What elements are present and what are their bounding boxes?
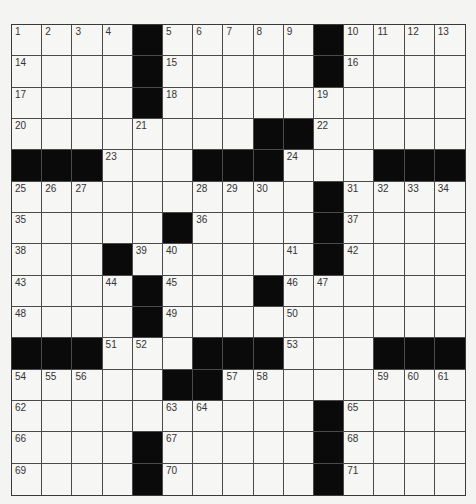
grid-cell[interactable] bbox=[193, 119, 223, 150]
grid-cell[interactable] bbox=[344, 307, 374, 338]
grid-cell[interactable]: 65 bbox=[344, 401, 374, 432]
grid-cell[interactable] bbox=[344, 119, 374, 150]
grid-cell[interactable]: 5 bbox=[163, 25, 193, 56]
grid-cell[interactable]: 8 bbox=[254, 25, 284, 56]
grid-cell[interactable]: 10 bbox=[344, 25, 374, 56]
grid-cell[interactable] bbox=[435, 119, 465, 150]
grid-cell[interactable]: 22 bbox=[314, 119, 344, 150]
grid-cell[interactable] bbox=[163, 182, 193, 213]
grid-cell[interactable] bbox=[72, 213, 102, 244]
grid-cell[interactable] bbox=[314, 370, 344, 401]
grid-cell[interactable]: 51 bbox=[103, 338, 133, 369]
grid-cell[interactable] bbox=[284, 432, 314, 463]
grid-cell[interactable] bbox=[193, 56, 223, 87]
grid-cell[interactable]: 16 bbox=[344, 56, 374, 87]
grid-cell[interactable]: 42 bbox=[344, 244, 374, 275]
grid-cell[interactable]: 33 bbox=[405, 182, 435, 213]
grid-cell[interactable] bbox=[405, 213, 435, 244]
grid-cell[interactable] bbox=[72, 88, 102, 119]
grid-cell[interactable]: 45 bbox=[163, 276, 193, 307]
grid-cell[interactable] bbox=[103, 432, 133, 463]
grid-cell[interactable]: 1 bbox=[12, 25, 42, 56]
grid-cell[interactable] bbox=[374, 119, 404, 150]
grid-cell[interactable] bbox=[103, 401, 133, 432]
grid-cell[interactable] bbox=[103, 213, 133, 244]
grid-cell[interactable] bbox=[223, 88, 253, 119]
grid-cell[interactable] bbox=[193, 307, 223, 338]
grid-cell[interactable] bbox=[223, 401, 253, 432]
grid-cell[interactable] bbox=[374, 432, 404, 463]
grid-cell[interactable]: 70 bbox=[163, 464, 193, 495]
grid-cell[interactable] bbox=[223, 464, 253, 495]
grid-cell[interactable]: 19 bbox=[314, 88, 344, 119]
grid-cell[interactable]: 53 bbox=[284, 338, 314, 369]
grid-cell[interactable] bbox=[284, 464, 314, 495]
grid-cell[interactable] bbox=[374, 464, 404, 495]
grid-cell[interactable] bbox=[374, 213, 404, 244]
grid-cell[interactable] bbox=[405, 401, 435, 432]
grid-cell[interactable] bbox=[193, 464, 223, 495]
grid-cell[interactable] bbox=[42, 119, 72, 150]
grid-cell[interactable] bbox=[103, 307, 133, 338]
grid-cell[interactable] bbox=[435, 213, 465, 244]
grid-cell[interactable]: 44 bbox=[103, 276, 133, 307]
grid-cell[interactable] bbox=[405, 276, 435, 307]
grid-cell[interactable] bbox=[42, 213, 72, 244]
grid-cell[interactable] bbox=[314, 150, 344, 181]
grid-cell[interactable] bbox=[72, 244, 102, 275]
grid-cell[interactable] bbox=[284, 401, 314, 432]
grid-cell[interactable] bbox=[72, 56, 102, 87]
grid-cell[interactable]: 57 bbox=[223, 370, 253, 401]
grid-cell[interactable] bbox=[284, 370, 314, 401]
grid-cell[interactable] bbox=[72, 276, 102, 307]
grid-cell[interactable] bbox=[254, 307, 284, 338]
grid-cell[interactable]: 55 bbox=[42, 370, 72, 401]
grid-cell[interactable] bbox=[103, 119, 133, 150]
grid-cell[interactable] bbox=[223, 307, 253, 338]
grid-cell[interactable]: 56 bbox=[72, 370, 102, 401]
grid-cell[interactable]: 7 bbox=[223, 25, 253, 56]
grid-cell[interactable] bbox=[254, 88, 284, 119]
grid-cell[interactable] bbox=[405, 432, 435, 463]
grid-cell[interactable] bbox=[284, 56, 314, 87]
grid-cell[interactable] bbox=[42, 432, 72, 463]
grid-cell[interactable] bbox=[254, 401, 284, 432]
grid-cell[interactable] bbox=[405, 119, 435, 150]
grid-cell[interactable] bbox=[284, 88, 314, 119]
grid-cell[interactable]: 29 bbox=[223, 182, 253, 213]
grid-cell[interactable] bbox=[435, 464, 465, 495]
grid-cell[interactable]: 3 bbox=[72, 25, 102, 56]
grid-cell[interactable]: 34 bbox=[435, 182, 465, 213]
grid-cell[interactable]: 37 bbox=[344, 213, 374, 244]
grid-cell[interactable] bbox=[314, 307, 344, 338]
grid-cell[interactable] bbox=[435, 88, 465, 119]
grid-cell[interactable] bbox=[193, 276, 223, 307]
grid-cell[interactable]: 12 bbox=[405, 25, 435, 56]
grid-cell[interactable] bbox=[103, 182, 133, 213]
grid-cell[interactable]: 27 bbox=[72, 182, 102, 213]
grid-cell[interactable] bbox=[42, 56, 72, 87]
grid-cell[interactable]: 39 bbox=[133, 244, 163, 275]
grid-cell[interactable] bbox=[163, 338, 193, 369]
grid-cell[interactable] bbox=[374, 401, 404, 432]
grid-cell[interactable]: 31 bbox=[344, 182, 374, 213]
grid-cell[interactable] bbox=[405, 56, 435, 87]
grid-cell[interactable]: 25 bbox=[12, 182, 42, 213]
grid-cell[interactable] bbox=[344, 88, 374, 119]
grid-cell[interactable] bbox=[254, 432, 284, 463]
grid-cell[interactable] bbox=[223, 276, 253, 307]
grid-cell[interactable]: 15 bbox=[163, 56, 193, 87]
grid-cell[interactable] bbox=[435, 244, 465, 275]
grid-cell[interactable] bbox=[344, 338, 374, 369]
grid-cell[interactable] bbox=[133, 182, 163, 213]
grid-cell[interactable] bbox=[254, 464, 284, 495]
grid-cell[interactable] bbox=[284, 182, 314, 213]
grid-cell[interactable] bbox=[223, 244, 253, 275]
grid-cell[interactable]: 68 bbox=[344, 432, 374, 463]
grid-cell[interactable]: 60 bbox=[405, 370, 435, 401]
grid-cell[interactable] bbox=[223, 56, 253, 87]
grid-cell[interactable] bbox=[405, 88, 435, 119]
grid-cell[interactable]: 20 bbox=[12, 119, 42, 150]
grid-cell[interactable] bbox=[435, 401, 465, 432]
grid-cell[interactable]: 28 bbox=[193, 182, 223, 213]
